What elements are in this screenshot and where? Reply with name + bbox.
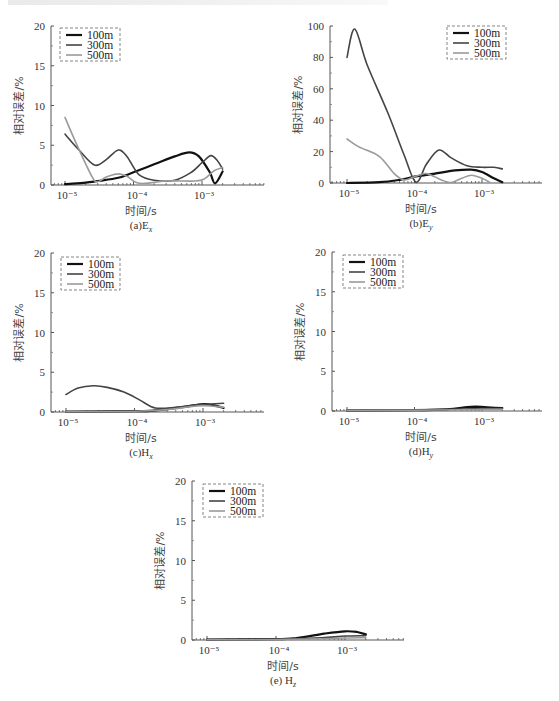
chart-panel-a: 0510152010⁻⁵10⁻⁴10⁻³时间/s相对误差/%(a)Ex100m3… [12, 20, 264, 234]
legend: 100m300m500m [60, 28, 120, 61]
series-line-500m [347, 139, 490, 183]
legend-entry: 500m [88, 278, 114, 290]
caption-subscript: x [148, 225, 153, 234]
y-tick-label: 10 [175, 555, 187, 567]
x-tick-label: 10⁻³ [474, 415, 495, 427]
x-tick-label: 10⁻⁴ [407, 187, 428, 199]
x-tick-label: 10⁻⁴ [127, 189, 148, 201]
series-line-500m [65, 117, 223, 183]
y-tick-label: 100 [308, 20, 325, 32]
x-axis-label: 时间/s [125, 432, 157, 445]
x-axis-label: 时间/s [125, 205, 157, 218]
y-axis-label: 相对误差/% [293, 302, 307, 360]
y-tick-label: 5 [40, 139, 46, 151]
x-tick-label: 10⁻³ [195, 416, 216, 428]
caption-text: (b)E [409, 217, 429, 230]
caption-text: (c)H [129, 446, 149, 459]
y-tick-label: 0 [181, 634, 187, 646]
caption-subscript: y [429, 451, 434, 460]
caption-text: (d)H [409, 445, 430, 458]
chart-panel-b: 02040608010010⁻⁵10⁻⁴10⁻³时间/s相对误差/%(b)Ey1… [291, 20, 542, 232]
y-tick-label: 0 [40, 179, 46, 191]
x-axis-label: 时间/s [405, 431, 437, 444]
caption-text: (e) H [270, 674, 293, 687]
chart-panel-c: 0510152010⁻⁵10⁻⁴10⁻³时间/s相对误差/%(c)Hx100m3… [12, 247, 264, 461]
y-tick-label: 20 [34, 20, 46, 32]
panel-caption: (e) Hz [270, 674, 297, 689]
caption-subscript: x [148, 452, 153, 461]
legend-entry: 500m [87, 49, 113, 61]
y-tick-label: 15 [175, 515, 187, 527]
x-tick-label: 10⁻⁵ [339, 415, 360, 427]
figure-canvas: 0510152010⁻⁵10⁻⁴10⁻³时间/s相对误差/%(a)Ex100m3… [0, 0, 559, 701]
panel-caption: (a)Ex [130, 219, 153, 234]
x-tick-label: 10⁻⁴ [269, 644, 290, 656]
y-tick-label: 0 [40, 406, 46, 418]
y-tick-label: 10 [315, 326, 327, 338]
legend: 100m300m500m [447, 26, 506, 59]
x-tick-label: 10⁻³ [194, 189, 215, 201]
y-tick-label: 80 [313, 51, 325, 63]
y-tick-label: 20 [315, 246, 327, 258]
caption-text: (a)E [130, 219, 149, 232]
y-tick-label: 5 [40, 366, 46, 378]
legend: 100m300m500m [61, 257, 120, 290]
y-tick-label: 15 [34, 60, 46, 72]
y-tick-label: 0 [319, 177, 325, 189]
y-tick-label: 5 [181, 594, 187, 606]
y-axis-label: 相对误差/% [12, 76, 26, 134]
x-tick-label: 10⁻⁴ [407, 415, 428, 427]
x-tick-label: 10⁻³ [474, 187, 495, 199]
panel-caption: (b)Ey [409, 217, 433, 232]
legend: 100m300m500m [343, 255, 403, 288]
y-tick-label: 20 [313, 146, 325, 158]
panel-caption: (c)Hx [129, 446, 153, 461]
y-axis-label: 相对误差/% [12, 303, 26, 361]
legend-entry: 500m [370, 276, 396, 288]
chart-panel-e: 0510152010⁻⁵10⁻⁴10⁻³时间/s相对误差/%(e) Hz100m… [153, 475, 404, 689]
x-tick-label: 10⁻⁵ [199, 644, 220, 656]
x-tick-label: 10⁻⁵ [57, 189, 78, 201]
panel-caption: (d)Hy [409, 445, 434, 460]
legend-entry: 500m [230, 505, 256, 517]
legend: 100m300m500m [203, 484, 263, 517]
x-tick-label: 10⁻⁴ [127, 416, 148, 428]
caption-subscript: y [428, 223, 433, 232]
y-tick-label: 40 [313, 114, 325, 126]
y-axis-label: 相对误差/% [153, 531, 167, 589]
y-tick-label: 10 [34, 327, 46, 339]
y-tick-label: 15 [315, 286, 327, 298]
y-tick-label: 10 [34, 100, 46, 112]
y-tick-label: 20 [34, 247, 46, 259]
y-tick-label: 60 [313, 83, 325, 95]
x-tick-label: 10⁻⁵ [58, 416, 79, 428]
y-tick-label: 5 [321, 365, 327, 377]
x-tick-label: 10⁻⁵ [339, 187, 360, 199]
x-axis-label: 时间/s [267, 660, 299, 673]
y-tick-label: 15 [34, 287, 46, 299]
y-tick-label: 20 [175, 475, 187, 487]
chart-panel-d: 0510152010⁻⁵10⁻⁴10⁻³时间/s相对误差/%(d)Hy100m3… [293, 246, 542, 460]
y-axis-label: 相对误差/% [291, 75, 305, 133]
x-tick-label: 10⁻³ [337, 644, 358, 656]
y-tick-label: 0 [321, 405, 327, 417]
legend-entry: 500m [474, 47, 500, 59]
x-axis-label: 时间/s [405, 203, 437, 216]
caption-subscript: z [292, 680, 297, 689]
